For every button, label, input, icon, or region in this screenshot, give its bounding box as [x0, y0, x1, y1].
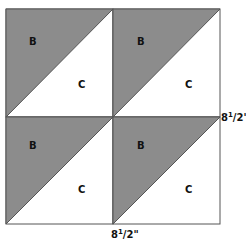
label-b: B: [29, 36, 37, 47]
cell-bottom-left: B C: [6, 117, 113, 224]
label-b: B: [137, 36, 145, 47]
label-c: C: [78, 79, 85, 90]
quilt-block-diagram: B C B C B C B C 81/2" 81/2": [0, 0, 246, 246]
label-c: C: [185, 184, 192, 195]
label-c: C: [78, 184, 85, 195]
label-b: B: [137, 140, 145, 151]
dimension-right: 81/2": [221, 111, 246, 123]
cell-top-right: B C: [113, 9, 220, 117]
cell-bottom-right: B C: [113, 117, 220, 224]
label-b: B: [29, 140, 37, 151]
dimension-bottom: 81/2": [111, 228, 139, 240]
label-c: C: [185, 79, 192, 90]
cell-top-left: B C: [6, 9, 113, 117]
